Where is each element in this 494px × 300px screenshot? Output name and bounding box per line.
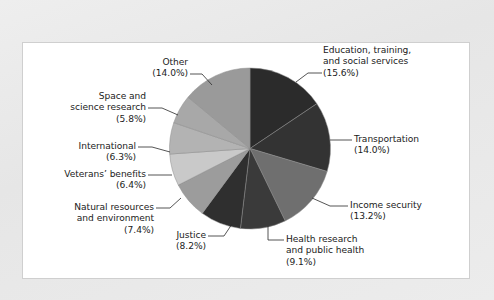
slice-label-health-research-pct: (9.1%)	[286, 257, 364, 268]
slice-label-health-research: Health research and public health (9.1%)	[286, 234, 364, 268]
slice-label-natural-resources-pct: (7.4%)	[44, 225, 154, 236]
leader-line-natural-resources	[156, 198, 181, 208]
slice-label-other-line1: Other	[162, 57, 188, 67]
slice-label-international-line1: International	[79, 141, 136, 151]
leader-line-education	[296, 73, 322, 82]
slice-label-transportation-line1: Transportation	[354, 134, 419, 144]
slice-label-international-pct: (6.3%)	[52, 152, 136, 163]
slice-label-natural-resources-line2: and environment	[77, 213, 154, 223]
slice-label-education-pct: (15.6%)	[323, 68, 411, 79]
slice-label-veterans-benefits-pct: (6.4%)	[44, 180, 146, 191]
slice-label-income-security: Income security (13.2%)	[350, 200, 422, 223]
slice-label-education-line1: Education, training,	[323, 45, 411, 55]
slice-label-transportation: Transportation (14.0%)	[354, 134, 419, 157]
pie-slices-group	[169, 68, 330, 229]
slice-label-space-science-line2: science research	[70, 102, 146, 112]
slice-label-income-security-line1: Income security	[350, 200, 422, 210]
slice-label-natural-resources-line1: Natural resources	[74, 202, 154, 212]
leader-line-health-research	[268, 226, 284, 240]
slice-label-veterans-benefits-line1: Veterans’ benefits	[64, 169, 146, 179]
slice-label-space-science: Space and science research (5.8%)	[42, 91, 146, 125]
slice-label-education: Education, training, and social services…	[323, 45, 411, 79]
slice-label-health-research-line2: and public health	[286, 245, 364, 255]
leader-line-income-security	[312, 198, 348, 206]
slice-label-health-research-line1: Health research	[286, 234, 357, 244]
slice-label-international: International (6.3%)	[52, 141, 136, 164]
slice-label-transportation-pct: (14.0%)	[354, 145, 419, 156]
slice-label-space-science-pct: (5.8%)	[42, 114, 146, 125]
slice-label-other-pct: (14.0%)	[110, 68, 188, 79]
leader-line-space-science	[148, 108, 178, 115]
slice-label-natural-resources: Natural resources and environment (7.4%)	[44, 202, 154, 236]
slice-label-education-line2: and social services	[323, 56, 408, 66]
slice-label-justice-line1: Justice	[176, 230, 206, 240]
slice-label-veterans-benefits: Veterans’ benefits (6.4%)	[44, 169, 146, 192]
slice-label-other: Other (14.0%)	[110, 57, 188, 80]
leader-line-international	[138, 147, 170, 152]
slice-label-income-security-pct: (13.2%)	[350, 211, 422, 222]
slice-label-space-science-line1: Space and	[99, 91, 146, 101]
slice-label-justice-pct: (8.2%)	[128, 241, 206, 252]
